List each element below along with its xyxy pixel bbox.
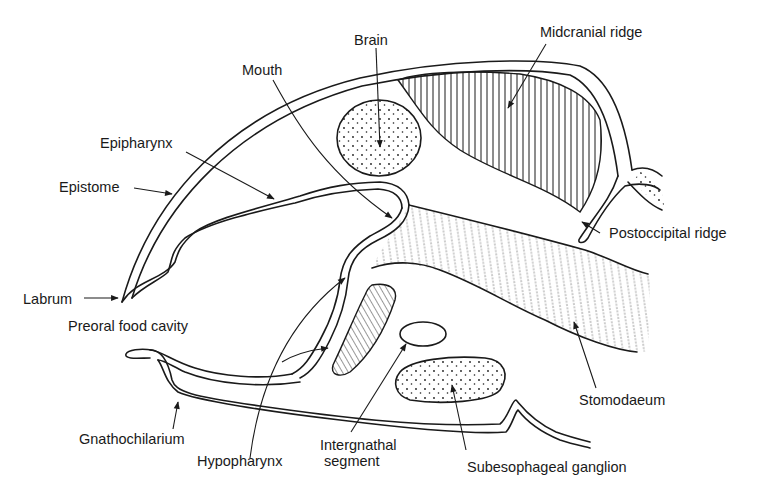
leader-gnathochilarium	[173, 402, 178, 429]
label-intergnathal-segment-line1: Intergnathal	[320, 437, 397, 453]
label-epistome: Epistome	[59, 179, 119, 195]
label-brain: Brain	[354, 32, 388, 48]
label-labrum: Labrum	[23, 291, 72, 307]
label-hypopharynx: Hypopharynx	[197, 453, 283, 469]
subesophageal-ganglion	[396, 357, 505, 402]
label-epipharynx: Epipharynx	[100, 135, 173, 151]
head-section-diagram: Brain Midcranial ridge Mouth Epipharynx …	[0, 0, 783, 500]
label-subesophageal-ganglion: Subesophageal ganglion	[467, 459, 627, 475]
label-preoral-food-cavity: Preoral food cavity	[68, 318, 189, 334]
label-stomodaeum: Stomodaeum	[579, 392, 665, 408]
label-mouth: Mouth	[242, 62, 282, 78]
intergnathal-segment	[400, 322, 446, 346]
label-intergnathal-segment-line2: segment	[324, 453, 380, 469]
hypopharynx	[292, 205, 409, 378]
leader-hypopharynx-1	[250, 278, 345, 458]
label-gnathochilarium: Gnathochilarium	[79, 431, 185, 447]
label-midcranial-ridge: Midcranial ridge	[540, 24, 642, 40]
epipharynx-labrum	[122, 182, 409, 302]
label-postoccipital-ridge: Postoccipital ridge	[609, 225, 727, 241]
leader-epipharynx	[186, 152, 274, 199]
labels: Brain Midcranial ridge Mouth Epipharynx …	[23, 24, 727, 475]
leader-epistome	[134, 188, 172, 194]
midcranial-ridge	[398, 72, 601, 212]
